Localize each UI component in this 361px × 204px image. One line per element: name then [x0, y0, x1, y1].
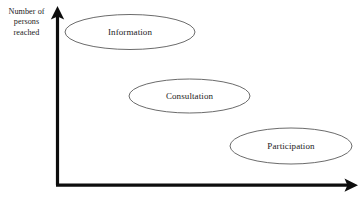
- x-axis-label: [246, 196, 361, 204]
- x-axis-arrow: [56, 179, 358, 192]
- bubble-label-information: Information: [108, 27, 152, 37]
- bubble-label-consultation: Consultation: [166, 91, 213, 101]
- y-axis-label-line-1: Number of: [0, 7, 53, 17]
- y-axis-label-line-3: reached: [0, 28, 53, 38]
- diagram-graphics: [0, 0, 361, 204]
- y-axis-label-line-2: persons: [0, 17, 53, 27]
- diagram-canvas: Number of persons reached Information Co…: [0, 0, 361, 204]
- y-axis-label: Number of persons reached: [0, 7, 53, 38]
- bubble-label-participation: Participation: [267, 141, 314, 151]
